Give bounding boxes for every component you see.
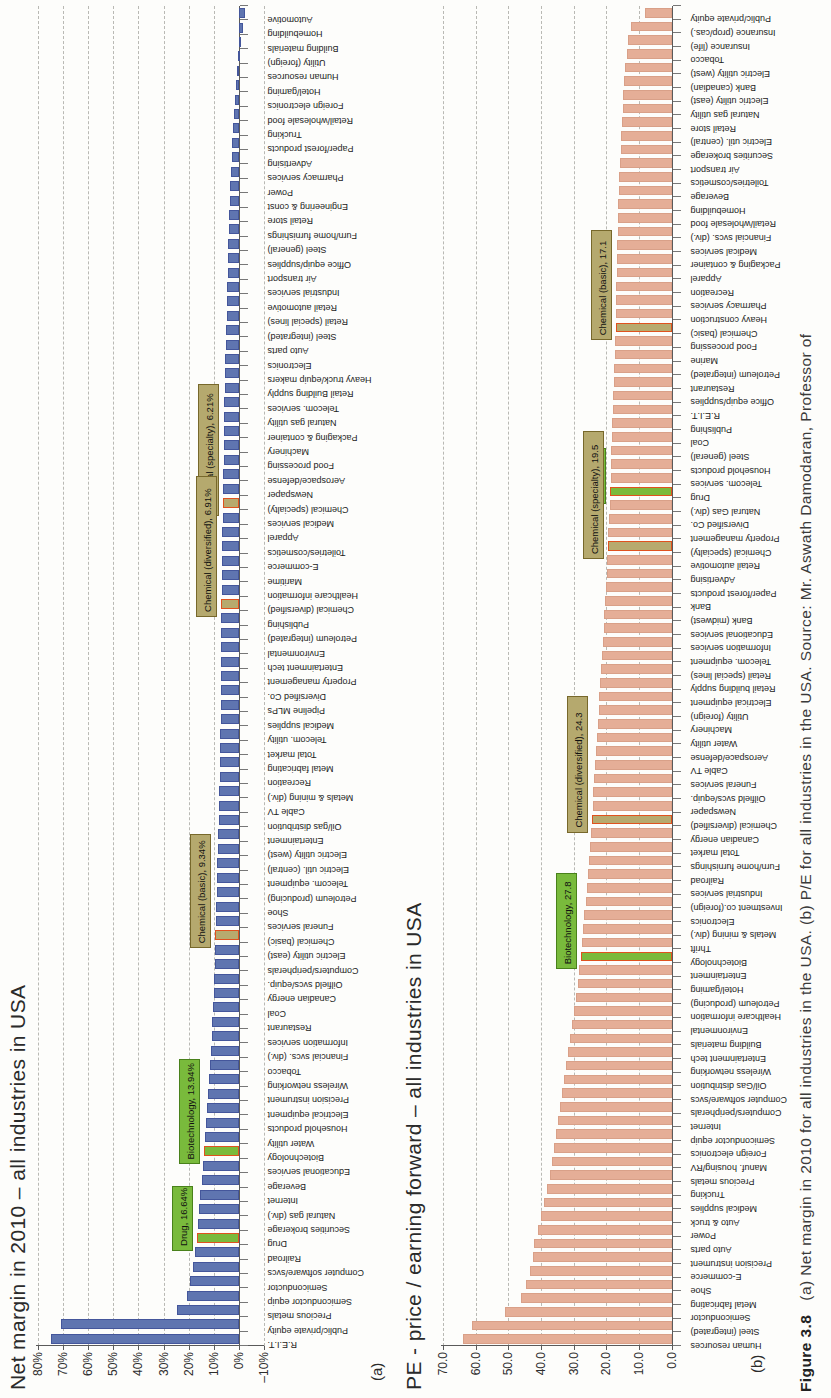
category-label: Packaging & container <box>267 431 372 443</box>
category-tick <box>673 593 681 594</box>
category-tick <box>240 697 248 698</box>
category-label: Shoe <box>267 907 372 919</box>
category-label: Biotechnology <box>690 956 795 968</box>
category-tick <box>673 114 681 115</box>
category-label: Securities brokerage <box>690 150 795 162</box>
bar <box>202 1175 239 1185</box>
category-tick <box>240 812 248 813</box>
category-tick <box>240 1345 248 1346</box>
category-label: Precious metals <box>690 1175 795 1187</box>
category-label: Retail/wholesale food <box>267 114 372 126</box>
category-tick <box>673 1126 681 1127</box>
axis-tick-label: 0% <box>232 1352 246 1392</box>
category-tick <box>240 221 248 222</box>
category-tick <box>673 224 681 225</box>
category-label: Electric utility (west) <box>267 849 372 861</box>
axis-tick-label: 30% <box>157 1352 171 1392</box>
category-label: Semiconductor equip <box>267 1296 372 1308</box>
category-tick <box>240 711 248 712</box>
bar <box>616 309 672 319</box>
category-tick <box>240 351 248 352</box>
category-tick <box>673 511 681 512</box>
bar <box>590 842 671 852</box>
bar <box>530 1266 672 1276</box>
category-tick <box>240 1273 248 1274</box>
category-tick <box>240 1287 248 1288</box>
category-tick <box>240 1201 248 1202</box>
category-tick <box>673 251 681 252</box>
category-tick <box>240 135 248 136</box>
category-tick <box>240 1028 248 1029</box>
bar <box>617 241 671 251</box>
category-tick <box>673 825 681 826</box>
bar <box>239 23 243 33</box>
axis-tick-label: 0.0 <box>665 1352 679 1392</box>
bar <box>597 733 672 743</box>
bar <box>583 924 671 934</box>
category-label: Shoe <box>690 1284 795 1296</box>
category-tick <box>240 48 248 49</box>
category-label: Publishing <box>267 618 372 630</box>
bar <box>227 282 239 292</box>
category-tick <box>240 5 248 6</box>
category-tick <box>240 164 248 165</box>
category-tick <box>673 1099 681 1100</box>
chart-b-panel-marker: (b) <box>748 1355 765 1373</box>
bar <box>611 473 672 483</box>
callout-label: Chemical (basic), 9.34% <box>190 834 211 948</box>
category-tick <box>673 1208 681 1209</box>
bar <box>230 196 239 206</box>
category-label: Tobacco <box>690 54 795 66</box>
category-label: Publishing <box>690 423 795 435</box>
category-label: Entertainment <box>690 970 795 982</box>
bar <box>229 224 239 234</box>
category-label: Natural gas utility <box>690 109 795 121</box>
category-tick <box>673 374 681 375</box>
bar <box>599 692 671 702</box>
category-label: Paper/forest products <box>267 143 372 155</box>
category-tick <box>673 142 681 143</box>
category-label: Entertainment tech <box>690 1052 795 1064</box>
gridline <box>88 6 89 1346</box>
figure-caption-text: (a) Net margin in 2010 for all industrie… <box>797 333 814 1300</box>
category-label: Internet <box>267 1195 372 1207</box>
category-tick <box>673 812 681 813</box>
bar <box>617 254 672 264</box>
category-label: Electronics <box>690 915 795 927</box>
category-tick <box>673 525 681 526</box>
axis-tick-label: 50% <box>106 1352 120 1392</box>
bar <box>621 145 672 155</box>
category-label: Retail automotive <box>267 301 372 313</box>
bar <box>227 311 239 321</box>
bar <box>611 459 672 469</box>
category-tick <box>240 466 248 467</box>
bar <box>564 1075 671 1085</box>
category-tick <box>240 1158 248 1159</box>
category-label: Retail (special lines) <box>267 316 372 328</box>
category-label: Bank (midwest) <box>690 614 795 626</box>
category-tick <box>673 866 681 867</box>
axis-tick-label: 60.0 <box>469 1352 483 1392</box>
axis-tick <box>88 1346 89 1350</box>
bar <box>208 1089 239 1099</box>
category-label: Automotive <box>267 13 372 25</box>
category-tick <box>673 1263 681 1264</box>
category-label: Computers/peripherals <box>267 964 372 976</box>
category-label: Entertainment tech <box>267 662 372 674</box>
category-tick <box>240 668 248 669</box>
category-tick <box>673 169 681 170</box>
bar <box>550 1170 671 1180</box>
category-label: Cable TV <box>690 765 795 777</box>
bar <box>616 295 671 305</box>
category-label: Financial svcs. (div.) <box>690 232 795 244</box>
category-tick <box>673 689 681 690</box>
bar <box>226 340 239 350</box>
category-tick <box>673 935 681 936</box>
bar <box>229 210 239 220</box>
callout-label: Biotechnology, 13.94% <box>179 1059 200 1164</box>
category-tick <box>240 553 248 554</box>
axis-tick-label: 60% <box>81 1352 95 1392</box>
bar <box>222 570 239 580</box>
bar <box>220 757 239 767</box>
bar <box>216 916 239 926</box>
